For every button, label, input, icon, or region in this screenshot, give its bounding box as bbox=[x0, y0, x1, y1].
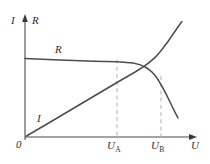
curve-R bbox=[25, 59, 178, 119]
curve-label-R: R bbox=[55, 44, 62, 55]
y-axis-label-current: I bbox=[11, 15, 15, 26]
x-tick-label-ua: UA bbox=[107, 140, 120, 151]
origin-label: 0 bbox=[16, 139, 22, 150]
x-axis-label-voltage: U bbox=[191, 140, 199, 151]
x-tick-ub-subscript: B bbox=[159, 145, 164, 154]
curve-label-I: I bbox=[37, 113, 41, 124]
curve-I bbox=[27, 22, 183, 137]
x-tick-ub-base: U bbox=[151, 139, 159, 151]
figure-container: I R U R I 0 UA UB bbox=[0, 0, 210, 164]
x-tick-ua-subscript: A bbox=[115, 145, 120, 154]
y-axis-label-resistance: R bbox=[32, 15, 39, 26]
x-tick-label-ub: UB bbox=[151, 140, 164, 151]
y-axis-arrow-icon bbox=[22, 14, 28, 22]
x-tick-ua-base: U bbox=[107, 139, 115, 151]
